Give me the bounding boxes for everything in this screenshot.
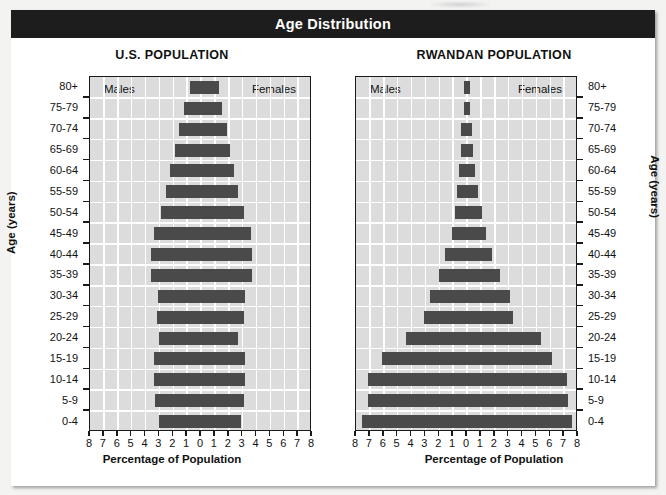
bar-female-15-19: [467, 352, 552, 365]
bar-male-60-64: [459, 164, 467, 177]
y-tick-mark: [83, 284, 89, 286]
x-tick-label-14: 6: [542, 437, 556, 449]
bar-male-30-34: [158, 290, 201, 303]
x-tick-mark: [424, 431, 426, 436]
bar-male-25-29: [157, 311, 201, 324]
y-tick-80+: 80+: [11, 80, 78, 92]
bar-male-20-24: [159, 332, 201, 345]
y-tick-65-69: 65-69: [588, 143, 648, 155]
x-tick-mark: [116, 431, 118, 436]
x-tick-mark: [241, 431, 243, 436]
bar-male-15-19: [154, 352, 201, 365]
bar-male-55-59: [457, 185, 467, 198]
x-tick-mark: [283, 431, 285, 436]
x-tick-mark: [172, 431, 174, 436]
y-tick-mark: [83, 242, 89, 244]
bar-male-35-39: [151, 269, 201, 282]
y-tick-mark: [577, 201, 583, 203]
bar-female-20-24: [201, 332, 238, 345]
bar-female-70-74: [201, 123, 227, 136]
figure-header: Age Distribution: [11, 10, 655, 38]
bar-female-55-59: [201, 185, 238, 198]
y-tick-80+: 80+: [588, 80, 648, 92]
horizontal-gridline: [356, 389, 576, 391]
bar-male-5-9: [368, 394, 467, 407]
vertical-gridline: [256, 77, 258, 430]
x-tick-mark: [562, 431, 564, 436]
horizontal-gridline: [356, 348, 576, 350]
y-tick-mark: [577, 242, 583, 244]
y-tick-20-24: 20-24: [588, 331, 648, 343]
y-tick-50-54: 50-54: [588, 206, 648, 218]
x-tick-mark: [382, 431, 384, 436]
chart-title-us: U.S. POPULATION: [11, 48, 333, 62]
scan-artifact: [430, 1, 490, 8]
vertical-gridline: [297, 77, 299, 430]
y-tick-mark: [577, 117, 583, 119]
y-tick-45-49: 45-49: [588, 227, 648, 239]
bar-male-45-49: [154, 227, 201, 240]
horizontal-gridline: [90, 160, 310, 162]
page-background: Age Distribution Age (years) Age (years)…: [0, 0, 666, 495]
y-tick-60-64: 60-64: [11, 164, 78, 176]
horizontal-gridline: [90, 389, 310, 391]
horizontal-gridline: [356, 410, 576, 412]
x-tick-mark: [199, 431, 201, 436]
x-tick-mark: [479, 431, 481, 436]
x-tick-label-0: 8: [82, 437, 96, 449]
y-tick-mark: [83, 117, 89, 119]
x-tick-label-1: 7: [96, 437, 110, 449]
bar-female-10-14: [201, 373, 245, 386]
bar-male-10-14: [368, 373, 467, 386]
bar-female-0-4: [201, 415, 241, 428]
horizontal-gridline: [90, 97, 310, 99]
y-tick-mark: [83, 388, 89, 390]
x-tick-label-2: 6: [376, 437, 390, 449]
horizontal-gridline: [90, 243, 310, 245]
bar-male-60-64: [170, 164, 201, 177]
y-tick-mark: [83, 368, 89, 370]
x-tick-mark: [410, 431, 412, 436]
y-tick-mark: [577, 138, 583, 140]
bar-male-40-44: [151, 248, 201, 261]
bar-female-45-49: [201, 227, 251, 240]
bar-male-70-74: [179, 123, 201, 136]
bar-female-5-9: [201, 394, 244, 407]
horizontal-gridline: [90, 118, 310, 120]
figure-body: Age (years) Age (years) U.S. POPULATION …: [11, 38, 655, 486]
x-tick-label-14: 6: [276, 437, 290, 449]
y-tick-65-69: 65-69: [11, 143, 78, 155]
y-tick-mark: [83, 326, 89, 328]
vertical-gridline: [131, 77, 133, 430]
bar-female-20-24: [467, 332, 541, 345]
horizontal-gridline: [356, 160, 576, 162]
y-tick-10-14: 10-14: [11, 373, 78, 385]
vertical-gridline: [270, 77, 272, 430]
y-tick-mark: [577, 347, 583, 349]
x-tick-mark: [438, 431, 440, 436]
horizontal-gridline: [356, 285, 576, 287]
horizontal-gridline: [356, 118, 576, 120]
y-tick-5-9: 5-9: [11, 394, 78, 406]
x-tick-label-8: 0: [193, 437, 207, 449]
x-tick-mark: [465, 431, 467, 436]
x-tick-mark: [396, 431, 398, 436]
bar-male-5-9: [155, 394, 201, 407]
y-tick-60-64: 60-64: [588, 164, 648, 176]
y-tick-50-54: 50-54: [11, 206, 78, 218]
x-tick-label-5: 3: [151, 437, 165, 449]
x-tick-label-10: 2: [221, 437, 235, 449]
bar-male-80+: [190, 81, 201, 94]
x-tick-label-7: 1: [445, 437, 459, 449]
bar-female-35-39: [201, 269, 252, 282]
x-tick-label-16: 8: [304, 437, 318, 449]
x-tick-mark: [144, 431, 146, 436]
y-tick-75-79: 75-79: [11, 101, 78, 113]
bar-male-75-79: [184, 102, 201, 115]
y-tick-25-29: 25-29: [588, 310, 648, 322]
horizontal-gridline: [90, 410, 310, 412]
horizontal-gridline: [356, 369, 576, 371]
bar-female-75-79: [201, 102, 222, 115]
y-tick-mark: [83, 201, 89, 203]
bar-female-65-69: [467, 144, 473, 157]
